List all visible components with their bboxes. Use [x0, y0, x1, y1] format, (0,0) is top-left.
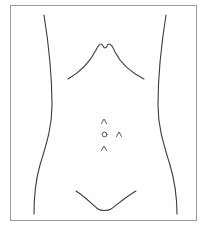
abdomen-diagram	[0, 0, 206, 228]
diagram-frame	[11, 6, 197, 221]
